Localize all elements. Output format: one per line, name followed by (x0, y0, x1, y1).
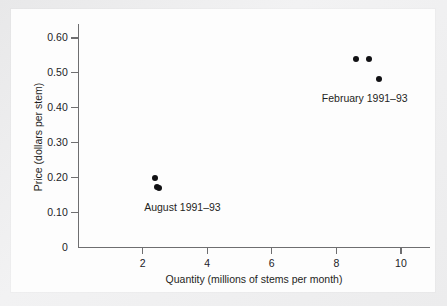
figure-root: 0.100.200.300.400.500.60 246810 0 Price … (0, 0, 447, 306)
x-axis-title: Quantity (millions of stems per month) (78, 273, 430, 285)
axis-origin-label: 0 (62, 241, 68, 253)
x-tick-label: 10 (381, 257, 421, 269)
x-tick-label: 6 (252, 257, 292, 269)
x-tick-label: 8 (316, 257, 356, 269)
series-annotation-label: February 1991–93 (322, 92, 408, 104)
y-axis-title: Price (dollars per stem) (32, 57, 44, 217)
y-tick-mark (71, 37, 78, 38)
x-tick-mark (207, 247, 208, 254)
data-point (366, 56, 372, 62)
y-tick-mark (71, 107, 78, 108)
y-tick-mark (71, 212, 78, 213)
data-point (152, 175, 158, 181)
y-axis-line (78, 24, 79, 248)
x-tick-label: 4 (187, 257, 227, 269)
data-point (156, 185, 162, 191)
y-tick-label: 0.60 (34, 31, 68, 43)
x-tick-mark (336, 247, 337, 254)
y-tick-mark (71, 72, 78, 73)
x-tick-label: 2 (123, 257, 163, 269)
data-point (376, 76, 382, 82)
x-tick-mark (271, 247, 272, 254)
x-axis-line (78, 247, 430, 248)
x-tick-mark (400, 247, 401, 254)
series-annotation-label: August 1991–93 (144, 201, 220, 213)
scatter-plot: 0.100.200.300.400.500.60 246810 0 Price … (0, 0, 447, 306)
data-point (353, 56, 359, 62)
y-tick-mark (71, 142, 78, 143)
x-tick-mark (142, 247, 143, 254)
y-tick-mark (71, 177, 78, 178)
